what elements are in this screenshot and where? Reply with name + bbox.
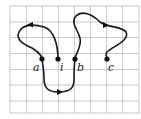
point-a — [39, 56, 44, 61]
curve-right-loop — [74, 13, 127, 59]
label-c: c — [108, 61, 114, 74]
label-i: i — [60, 61, 64, 74]
label-b: b — [77, 61, 84, 74]
arrow-left-icon — [27, 22, 33, 28]
curve-diagram: a i b c — [0, 0, 141, 119]
arrow-right-icon — [57, 89, 63, 95]
label-a: a — [33, 61, 40, 74]
